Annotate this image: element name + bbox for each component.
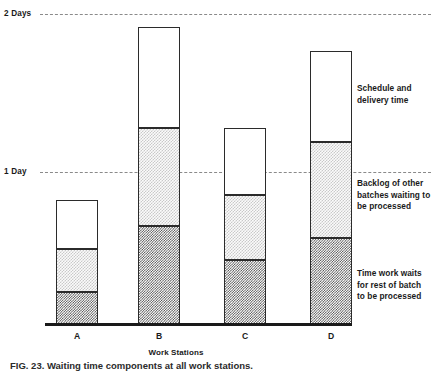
x-axis-label-a: A xyxy=(56,331,98,341)
legend-label-time-work-waits: Time work waits for rest of batch to be … xyxy=(357,268,431,303)
gridline-2-days xyxy=(40,14,431,15)
x-axis-baseline xyxy=(45,323,352,326)
bar-d-segment-schedule-and-delivery-time xyxy=(310,51,352,142)
bar-d-segment-backlog xyxy=(310,142,352,238)
bar-b-segment-schedule-and-delivery-time xyxy=(138,27,180,128)
bar-a-segment-backlog xyxy=(56,249,98,292)
bar-b-segment-time-work-waits xyxy=(138,226,180,325)
x-axis-label-c: C xyxy=(224,331,266,341)
bar-a-segment-schedule-and-delivery-time xyxy=(56,200,98,249)
bar-b-segment-backlog xyxy=(138,128,180,226)
bar-work-station-a xyxy=(56,200,98,325)
x-axis-label-d: D xyxy=(310,331,352,341)
bar-work-station-b xyxy=(138,27,180,325)
gridline-label-1-day: 1 Day xyxy=(4,167,27,176)
bar-c-segment-time-work-waits xyxy=(224,260,266,325)
x-axis-title: Work Stations xyxy=(0,348,352,357)
figure-caption: FIG. 23. Waiting time components at all … xyxy=(10,360,430,371)
legend-label-backlog: Backlog of other batches waiting to be p… xyxy=(357,178,431,213)
bar-d-segment-time-work-waits xyxy=(310,238,352,325)
bar-work-station-c xyxy=(224,128,266,325)
bar-work-station-d xyxy=(310,51,352,325)
gridline-label-2-days: 2 Days xyxy=(4,9,31,18)
bar-c-segment-backlog xyxy=(224,195,266,260)
bar-a-segment-time-work-waits xyxy=(56,292,98,325)
bar-c-segment-schedule-and-delivery-time xyxy=(224,128,266,195)
x-axis-label-b: B xyxy=(138,331,180,341)
legend-label-schedule-and-delivery-time: Schedule and delivery time xyxy=(357,83,431,106)
